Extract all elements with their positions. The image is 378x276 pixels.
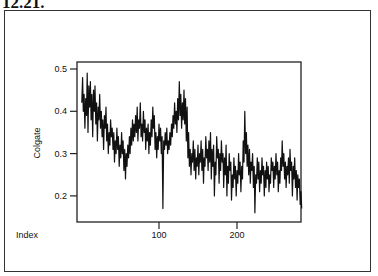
y-tick-label: 0.3 (54, 149, 67, 159)
x-tick-label: 100 (151, 230, 166, 240)
y-tick-label: 0.2 (54, 191, 67, 201)
colgate-series-line (82, 73, 302, 213)
y-tick-label: 0.4 (54, 106, 67, 116)
x-axis: 100200 (151, 222, 244, 240)
time-series-plot: 0.20.30.40.5 100200 Colgate Index (0, 0, 378, 276)
y-tick-label: 0.5 (54, 64, 67, 74)
y-axis-label: Colgate (32, 127, 42, 158)
y-axis: 0.20.30.40.5 (54, 64, 77, 201)
x-axis-label: Index (16, 230, 39, 240)
x-tick-label: 200 (229, 230, 244, 240)
